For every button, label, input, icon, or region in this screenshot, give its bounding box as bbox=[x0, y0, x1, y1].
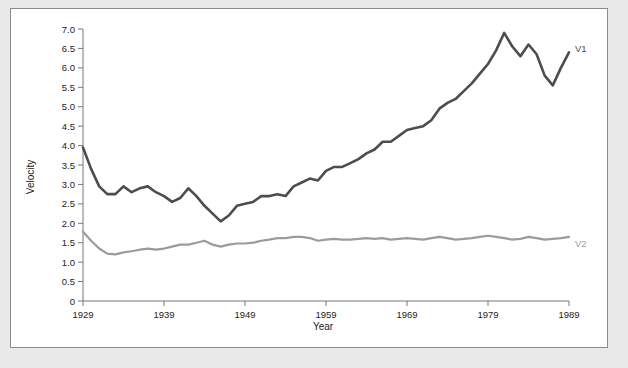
y-tick-label: 6.5 bbox=[62, 43, 75, 54]
figure-root: 00.51.01.52.02.53.03.54.04.55.05.56.06.5… bbox=[0, 0, 628, 368]
y-tick-label: 1.0 bbox=[62, 257, 75, 268]
series-line-v1 bbox=[83, 33, 569, 221]
series-line-v2 bbox=[83, 232, 569, 255]
y-tick-label: 2.0 bbox=[62, 218, 75, 229]
y-tick-label: 0.5 bbox=[62, 276, 75, 287]
y-tick-label: 1.5 bbox=[62, 237, 75, 248]
y-tick-label: 6.0 bbox=[62, 62, 75, 73]
x-axis-ticks: 1929193919491959196919791989 bbox=[72, 301, 579, 320]
x-tick-label: 1979 bbox=[477, 309, 498, 320]
y-tick-label: 3.0 bbox=[62, 179, 75, 190]
x-tick-label: 1969 bbox=[396, 309, 417, 320]
y-tick-label: 0 bbox=[70, 296, 75, 307]
figure-frame: 00.51.01.52.02.53.03.54.04.55.05.56.06.5… bbox=[10, 8, 608, 348]
y-tick-label: 7.0 bbox=[62, 24, 75, 35]
x-tick-label: 1939 bbox=[153, 309, 174, 320]
y-tick-label: 4.0 bbox=[62, 140, 75, 151]
x-tick-label: 1929 bbox=[72, 309, 93, 320]
y-tick-label: 5.0 bbox=[62, 101, 75, 112]
x-tick-label: 1989 bbox=[558, 309, 579, 320]
x-axis-title: Year bbox=[313, 321, 334, 332]
y-tick-label: 2.5 bbox=[62, 198, 75, 209]
y-axis-ticks: 00.51.01.52.02.53.03.54.04.55.05.56.06.5… bbox=[62, 24, 83, 307]
y-tick-label: 4.5 bbox=[62, 121, 75, 132]
y-axis-title: Velocity bbox=[25, 160, 36, 194]
x-tick-label: 1949 bbox=[234, 309, 255, 320]
x-tick-label: 1959 bbox=[315, 309, 336, 320]
series-label-v1: V1 bbox=[575, 43, 587, 54]
y-tick-label: 3.5 bbox=[62, 160, 75, 171]
y-tick-label: 5.5 bbox=[62, 82, 75, 93]
series-label-v2: V2 bbox=[575, 238, 587, 249]
line-chart-plot: 00.51.01.52.02.53.03.54.04.55.05.56.06.5… bbox=[11, 9, 607, 347]
